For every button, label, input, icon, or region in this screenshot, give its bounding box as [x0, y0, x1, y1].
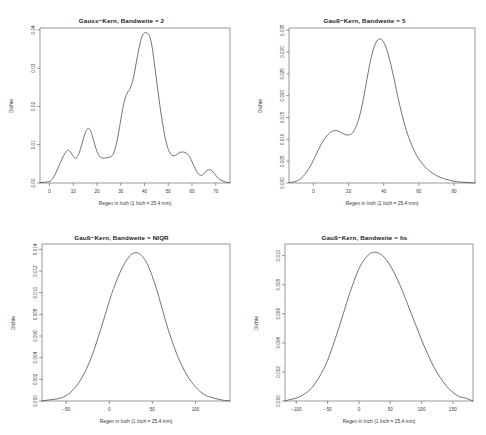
y-tick-label: 0.012 [33, 265, 38, 277]
x-tick-label: 50 [388, 407, 394, 412]
plot-frame [42, 244, 230, 401]
x-tick-label: −50 [324, 407, 332, 412]
y-tick-label: 0.000 [280, 177, 285, 189]
y-tick-label: 0.005 [280, 155, 285, 167]
x-tick-label: 20 [94, 189, 100, 194]
y-tick-label: 0.03 [31, 63, 36, 72]
y-tick-label: 0.006 [33, 330, 38, 342]
y-tick-label: 0.035 [280, 24, 285, 36]
plot-panel-2: Gauß−Kern, Bandweite = 5 0204060800.0000… [243, 0, 486, 218]
y-tick-label: 0.015 [280, 111, 285, 123]
y-tick-label: 0.020 [280, 89, 285, 101]
y-tick-label: 0.04 [31, 25, 36, 34]
y-axis-title: Dichte [11, 316, 16, 330]
x-tick-label: 0 [108, 407, 111, 412]
y-tick-label: 0.008 [276, 279, 281, 291]
y-tick-label: 0.010 [280, 133, 285, 145]
y-tick-label: 0.02 [31, 102, 36, 111]
y-tick-label: 0.014 [33, 243, 38, 255]
x-tick-label: 40 [381, 189, 387, 194]
plot-panel-4: Gauß−Kern, Bandweite = hs −100−500501001… [243, 218, 486, 435]
y-tick-label: 0.008 [33, 308, 38, 320]
x-tick-label: 30 [118, 189, 124, 194]
plot-axes-1: 0102030405060700.000.010.020.030.04Regen… [9, 25, 230, 206]
y-tick-label: 0.006 [276, 308, 281, 320]
x-tick-label: 60 [416, 189, 422, 194]
x-axis-title: Regen in Inch (1 Inch = 25.4 mm) [100, 419, 173, 424]
plot-axes-2: 0204060800.0000.0050.0100.0150.0200.0250… [258, 24, 475, 206]
x-tick-label: 40 [142, 189, 148, 194]
x-tick-label: 100 [418, 407, 426, 412]
y-tick-label: 0.004 [33, 351, 38, 363]
x-tick-label: 50 [166, 189, 172, 194]
x-tick-label: 20 [346, 189, 352, 194]
plot-panel-3: Gauß−Kern, Bandweite = NIQR −500501000.0… [0, 218, 243, 435]
x-tick-label: 10 [71, 189, 77, 194]
x-axis-title: Regen in Inch (1 Inch = 25.4 mm) [99, 201, 172, 206]
y-tick-label: 0.030 [280, 46, 285, 58]
y-tick-label: 0.002 [33, 373, 38, 385]
x-tick-label: 80 [451, 189, 457, 194]
y-tick-label: 0.010 [33, 287, 38, 299]
figure-grid: Gauss−Kern, Bandweite = 2 01020304050607… [0, 0, 486, 435]
y-tick-label: 0.000 [33, 395, 38, 407]
x-axis-title: Regen in Inch (1 Inch = 25.4 mm) [346, 201, 419, 206]
y-axis-title: Dichte [258, 99, 263, 113]
y-tick-label: 0.025 [280, 68, 285, 80]
x-tick-label: 70 [213, 189, 219, 194]
x-tick-label: 50 [150, 407, 156, 412]
plot-panel-1: Gauss−Kern, Bandweite = 2 01020304050607… [0, 0, 243, 218]
x-tick-label: −50 [62, 407, 70, 412]
y-tick-label: 0.010 [276, 249, 281, 261]
plot-axes-3: −500501000.0000.0020.0040.0060.0080.0100… [11, 243, 230, 424]
density-curve-3 [42, 253, 230, 401]
y-axis-title: Dichte [9, 99, 14, 113]
plot-canvas-3: −500501000.0000.0020.0040.0060.0080.0100… [0, 218, 243, 435]
x-tick-label: 150 [449, 407, 457, 412]
density-curve-2 [289, 39, 475, 183]
y-tick-label: 0.000 [276, 395, 281, 407]
x-axis-title: Regen in Inch (1 Inch = 25.4 mm) [343, 419, 416, 424]
y-tick-label: 0.01 [31, 140, 36, 149]
plot-frame [289, 28, 475, 183]
plot-axes-4: −100−500501001500.0000.0020.0040.0060.00… [254, 244, 473, 424]
x-tick-label: 0 [358, 407, 361, 412]
plot-canvas-1: 0102030405060700.000.010.020.030.04Regen… [0, 0, 243, 218]
density-curve-1 [40, 33, 230, 183]
y-tick-label: 0.002 [276, 366, 281, 378]
x-tick-label: 100 [192, 407, 200, 412]
x-tick-label: 60 [189, 189, 195, 194]
plot-canvas-2: 0204060800.0000.0050.0100.0150.0200.0250… [243, 0, 486, 218]
y-tick-label: 0.004 [276, 337, 281, 349]
plot-frame [40, 28, 230, 183]
plot-frame [285, 244, 473, 401]
y-tick-label: 0.00 [31, 178, 36, 187]
density-curve-4 [285, 252, 473, 401]
plot-canvas-4: −100−500501001500.0000.0020.0040.0060.00… [243, 218, 486, 435]
x-tick-label: 0 [48, 189, 51, 194]
y-axis-title: Dichte [254, 316, 259, 330]
x-tick-label: 0 [312, 189, 315, 194]
x-tick-label: −100 [291, 407, 302, 412]
